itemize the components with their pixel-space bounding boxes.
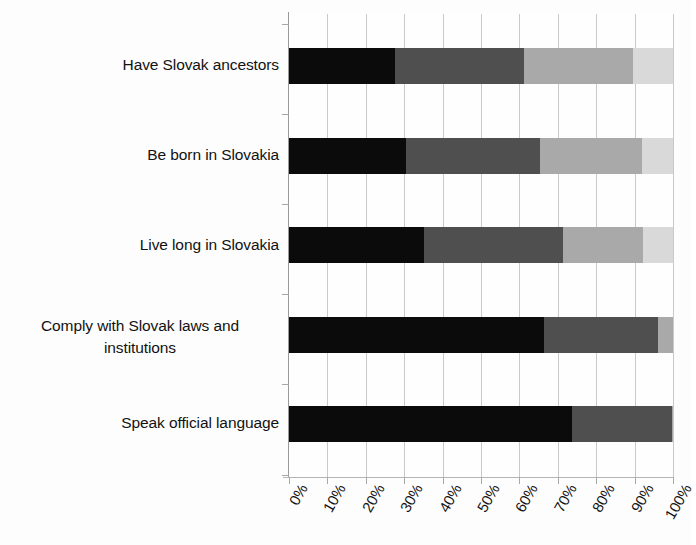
- category-label-live-long-in-slovakia: Live long in Slovakia: [1, 235, 279, 254]
- bar-segment: [289, 138, 406, 174]
- x-tickmark-100%: [673, 477, 674, 484]
- bar-segment: [544, 317, 658, 353]
- y-tickmark-3: [282, 294, 289, 295]
- category-label-comply-with-slovak-laws-and-institutions: Comply with Slovak laws and institutions: [1, 315, 279, 359]
- bar-segment: [672, 406, 673, 442]
- bar-segment: [563, 227, 643, 263]
- bar-segment: [289, 317, 544, 353]
- y-tickmark-1: [282, 114, 289, 115]
- bar-segment: [643, 227, 673, 263]
- y-tickmark-5: [282, 475, 289, 476]
- category-label-speak-official-language: Speak official language: [1, 413, 279, 432]
- bar-segment: [395, 48, 524, 84]
- bar-segment: [633, 48, 673, 84]
- gridline-100%: [673, 14, 674, 477]
- bar-segment: [658, 317, 673, 353]
- category-label-have-slovak-ancestors: Have Slovak ancestors: [1, 55, 279, 74]
- bar-segment: [642, 138, 673, 174]
- y-tickmark-2: [282, 204, 289, 205]
- x-tick-label-100%: 100%: [680, 448, 696, 489]
- bar-segment: [424, 227, 563, 263]
- category-label-be-born-in-slovakia: Be born in Slovakia: [1, 145, 279, 164]
- y-tickmark-4: [282, 384, 289, 385]
- bar-row: [289, 406, 673, 442]
- x-axis-tick-labels: 0%10%20%30%40%50%60%70%80%90%100%: [289, 477, 673, 545]
- plot-area: [289, 14, 673, 477]
- bar-segment: [289, 227, 424, 263]
- category-axis-labels: Have Slovak ancestors Be born in Slovaki…: [0, 14, 285, 477]
- bar-segment: [524, 48, 633, 84]
- bar-segment: [289, 406, 572, 442]
- bar-row: [289, 138, 673, 174]
- bar-segment: [572, 406, 672, 442]
- bar-segment: [406, 138, 540, 174]
- bar-segment: [289, 48, 395, 84]
- bar-row: [289, 227, 673, 263]
- bar-row: [289, 48, 673, 84]
- bar-segment: [540, 138, 642, 174]
- bar-row: [289, 317, 673, 353]
- y-tickmark-0: [282, 24, 289, 25]
